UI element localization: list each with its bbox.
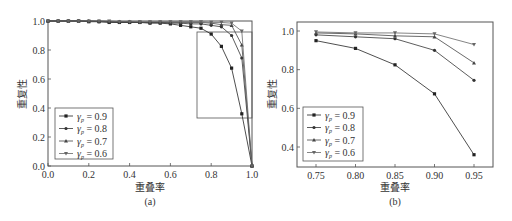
y-tick-label: 0.6 xyxy=(282,103,295,114)
y-tick-label: 0.2 xyxy=(33,132,46,143)
data-point-marker xyxy=(230,67,233,70)
x-tick-label: 0.6 xyxy=(164,169,177,180)
x-tick-label: 0.75 xyxy=(307,170,325,181)
y-tick-label: 1.0 xyxy=(33,16,46,27)
data-point-marker xyxy=(210,32,213,35)
data-point-marker xyxy=(64,114,67,117)
y-tick-label: 0.8 xyxy=(33,45,46,56)
y-axis-label-b: 重复性 xyxy=(266,79,278,109)
data-point-marker xyxy=(314,39,317,42)
x-tick-label: 0.2 xyxy=(83,169,96,180)
data-point-marker xyxy=(312,113,315,116)
y-tick-label: 0.4 xyxy=(33,103,46,114)
data-point-marker xyxy=(393,37,396,40)
x-tick-label: 0.80 xyxy=(347,170,365,181)
y-axis-label-a: 重复性 xyxy=(16,79,28,109)
x-axis-label-a: 重叠率 xyxy=(135,181,165,193)
data-point-marker xyxy=(312,126,315,129)
x-tick-label: 0.4 xyxy=(123,169,136,180)
data-point-marker xyxy=(472,79,475,82)
y-tick-label: 0.4 xyxy=(282,142,295,153)
data-point-marker xyxy=(230,34,233,37)
x-tick-label: 0.85 xyxy=(386,170,404,181)
y-tick-label: 0.8 xyxy=(282,64,295,75)
data-point-marker xyxy=(240,30,244,34)
x-tick-label: 1.0 xyxy=(246,169,259,180)
data-point-marker xyxy=(354,47,357,50)
data-point-marker xyxy=(64,127,67,130)
data-point-marker xyxy=(240,112,243,115)
data-point-marker xyxy=(220,45,223,48)
data-point-marker xyxy=(199,27,202,30)
data-point-marker xyxy=(472,43,476,47)
legend-b: γp = 0.9γp = 0.8γp = 0.7γp = 0.6 xyxy=(303,107,363,161)
data-point-marker xyxy=(189,25,192,28)
data-point-marker xyxy=(472,61,476,65)
y-tick-label: 0.6 xyxy=(33,74,46,85)
caption-a: (a) xyxy=(144,196,155,208)
x-tick-label: 0.8 xyxy=(205,169,218,180)
series-line xyxy=(316,35,474,80)
chart-panel-a: 0.00.20.40.60.81.0 0.00.20.40.60.81.0 γp… xyxy=(16,16,258,209)
data-point-marker xyxy=(433,49,436,52)
x-tick-label: 0.0 xyxy=(42,169,55,180)
caption-b: (b) xyxy=(389,196,401,208)
x-axis-label-b: 重叠率 xyxy=(380,181,410,193)
x-tick-label: 0.90 xyxy=(426,170,444,181)
data-point-marker xyxy=(433,92,436,95)
data-point-marker xyxy=(354,35,357,38)
y-tick-label: 1.0 xyxy=(282,26,295,37)
legend-a: γp = 0.9γp = 0.8γp = 0.7γp = 0.6 xyxy=(55,108,113,160)
data-point-marker xyxy=(393,63,396,66)
figure: 0.00.20.40.60.81.0 0.00.20.40.60.81.0 γp… xyxy=(0,0,512,221)
x-tick-label: 0.95 xyxy=(465,170,483,181)
data-point-marker xyxy=(472,153,475,156)
chart-panel-b: 0.40.60.81.0 0.750.800.850.900.95 γp = 0… xyxy=(266,22,493,208)
